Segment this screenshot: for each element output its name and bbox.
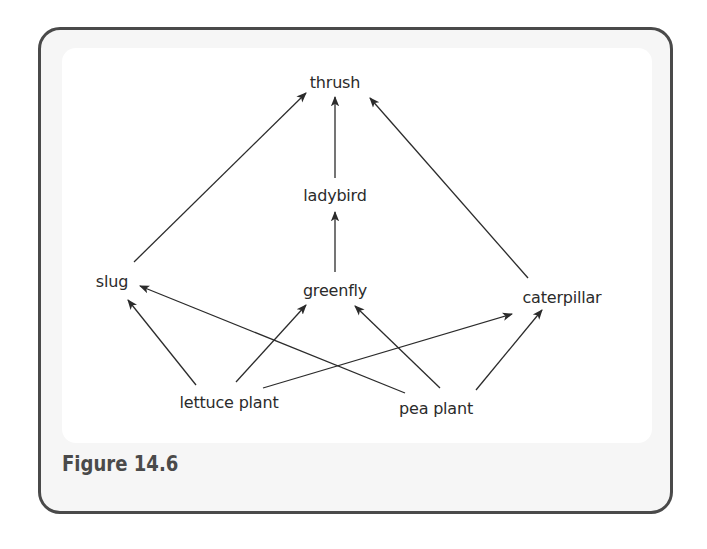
arrow-pea-to-greenfly bbox=[355, 306, 440, 388]
node-pea-plant: pea plant bbox=[399, 399, 473, 418]
node-caterpillar: caterpillar bbox=[523, 288, 602, 307]
figure-caption: Figure 14.6 bbox=[62, 452, 178, 476]
node-greenfly: greenfly bbox=[303, 281, 367, 300]
node-ladybird: ladybird bbox=[303, 186, 366, 205]
arrow-lettuce-to-greenfly bbox=[236, 305, 306, 382]
node-slug: slug bbox=[96, 272, 128, 291]
arrow-lettuce-to-slug bbox=[128, 300, 196, 385]
arrow-slug-to-thrush bbox=[134, 93, 306, 262]
arrow-caterpillar-to-thrush bbox=[370, 98, 528, 278]
node-thrush: thrush bbox=[310, 73, 360, 92]
arrow-pea-to-slug bbox=[140, 286, 405, 393]
node-lettuce-plant: lettuce plant bbox=[180, 393, 279, 412]
